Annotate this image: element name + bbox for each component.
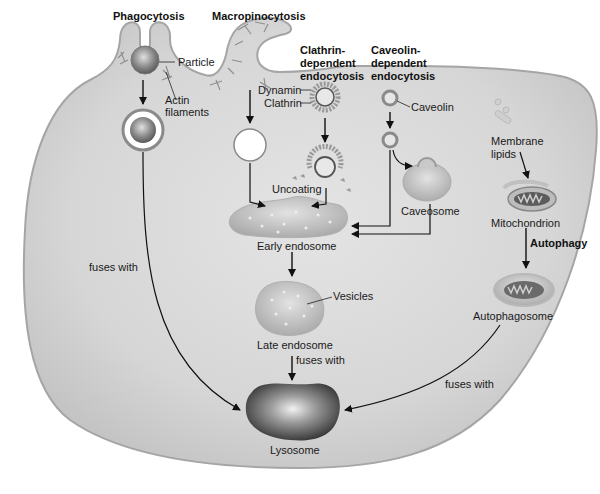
heading-phagocytosis: Phagocytosis — [113, 10, 185, 23]
label-caveosome: Caveosome — [401, 205, 460, 218]
autophagosome — [494, 274, 554, 306]
label-dynamin: Dynamin — [258, 84, 301, 97]
heading-autophagy: Autophagy — [530, 237, 587, 250]
heading-clathrin-line3: endocytosis — [300, 70, 364, 83]
macropinosome — [234, 129, 266, 161]
heading-caveolin-line3: endocytosis — [371, 70, 435, 83]
label-mitochondrion: Mitochondrion — [491, 217, 560, 230]
label-vesicles: Vesicles — [333, 290, 373, 303]
label-fuses-with-right: fuses with — [445, 378, 494, 391]
label-autophagosome: Autophagosome — [473, 310, 553, 323]
heading-macropinocytosis: Macropinocytosis — [212, 10, 306, 23]
heading-caveolin-line2: dependent — [371, 57, 427, 70]
label-late-endosome: Late endosome — [257, 339, 333, 352]
label-actin-line2: filaments — [165, 106, 209, 119]
heading-clathrin-line2: dependent — [300, 57, 356, 70]
caveolin-vesicle — [383, 133, 397, 147]
heading-caveolin-line1: Caveolin- — [371, 44, 421, 57]
caveolae — [383, 91, 397, 105]
particle-sphere — [131, 46, 159, 74]
label-clathrin: Clathrin — [264, 97, 302, 110]
label-fuses-with-center: fuses with — [296, 354, 345, 367]
heading-clathrin-line1: Clathrin- — [300, 44, 345, 57]
label-particle: Particle — [178, 56, 215, 69]
label-fuses-with-left: fuses with — [89, 261, 138, 274]
label-membrane-lipids-line1: Membrane — [491, 135, 544, 148]
label-membrane-lipids-line2: lipids — [491, 148, 516, 161]
endocytosis-diagram: Phagocytosis Macropinocytosis Clathrin- … — [0, 0, 600, 494]
label-uncoating: Uncoating — [272, 183, 322, 196]
label-lysosome: Lysosome — [270, 444, 320, 457]
label-caveolin: Caveolin — [411, 101, 454, 114]
label-early-endosome: Early endosome — [257, 240, 337, 253]
late-endosome — [256, 282, 324, 336]
